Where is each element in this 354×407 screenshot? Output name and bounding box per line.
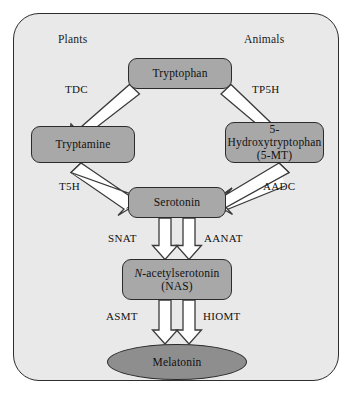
node-5-hydroxytryptophan-line2: (5-MT) bbox=[257, 149, 293, 161]
node-tryptophan-label: Tryptophan bbox=[148, 67, 211, 80]
arrow-asmt bbox=[153, 300, 178, 344]
pathway-figure: Plants Animals Tryptophan Tryptamine 5-H… bbox=[0, 0, 354, 407]
enzyme-label-t5h: T5H bbox=[59, 180, 80, 192]
node-n-acetylserotonin-label: N-acetylserotonin (NAS) bbox=[130, 267, 223, 293]
node-tryptamine[interactable]: Tryptamine bbox=[31, 126, 135, 163]
node-n-acetylserotonin-line1-rest: -acetylserotonin bbox=[142, 267, 219, 279]
node-melatonin[interactable]: Melatonin bbox=[107, 344, 247, 380]
enzyme-label-aanat: AANAT bbox=[204, 232, 243, 244]
node-5-hydroxytryptophan[interactable]: 5-Hydroxytryptophan (5-MT) bbox=[225, 122, 324, 163]
node-5-hydroxytryptophan-line1: 5-Hydroxytryptophan bbox=[227, 123, 321, 148]
enzyme-label-tp5h: TP5H bbox=[252, 83, 279, 95]
compartment-label-animals: Animals bbox=[244, 33, 284, 45]
compartment-label-plants: Plants bbox=[58, 33, 87, 45]
enzyme-label-snat: SNAT bbox=[108, 232, 137, 244]
node-tryptamine-label: Tryptamine bbox=[51, 138, 114, 151]
node-serotonin-label: Serotonin bbox=[150, 196, 205, 209]
node-n-acetylserotonin-line2: (NAS) bbox=[161, 280, 193, 292]
enzyme-label-tdc: TDC bbox=[65, 83, 88, 95]
node-tryptophan[interactable]: Tryptophan bbox=[128, 58, 232, 89]
arrow-aanat bbox=[177, 218, 202, 260]
node-n-acetylserotonin[interactable]: N-acetylserotonin (NAS) bbox=[122, 259, 232, 300]
arrow-hiomt bbox=[177, 300, 202, 344]
arrow-snat bbox=[153, 218, 178, 260]
enzyme-label-aadc: AADC bbox=[263, 180, 295, 192]
node-5-hydroxytryptophan-label: 5-Hydroxytryptophan (5-MT) bbox=[223, 123, 325, 162]
node-serotonin[interactable]: Serotonin bbox=[128, 187, 226, 218]
node-melatonin-label: Melatonin bbox=[148, 356, 205, 369]
enzyme-label-asmt: ASMT bbox=[106, 310, 138, 322]
enzyme-label-hiomt: HIOMT bbox=[203, 310, 241, 322]
